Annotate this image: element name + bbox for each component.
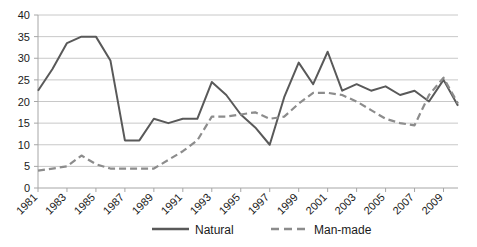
x-axis: [38, 188, 458, 192]
x-axis-tick-label: 2009: [419, 191, 445, 217]
y-axis-tick-labels: 0510152025303540: [18, 9, 30, 194]
x-axis-tick-label: 1983: [43, 191, 69, 217]
x-axis-tick-label: 1993: [187, 191, 213, 217]
x-axis-tick-label: 2003: [332, 191, 358, 217]
y-axis-tick-label: 15: [18, 117, 30, 129]
series-line-natural: [38, 37, 458, 145]
y-axis-tick-label: 35: [18, 31, 30, 43]
y-axis-tick-label: 10: [18, 139, 30, 151]
x-axis-tick-label: 1981: [14, 191, 40, 217]
x-axis-tick-label: 2001: [303, 191, 329, 217]
y-axis-tick-label: 5: [24, 160, 30, 172]
y-axis-tick-label: 20: [18, 96, 30, 108]
x-axis-tick-label: 1995: [216, 191, 242, 217]
x-axis-tick-label: 1991: [158, 191, 184, 217]
data-series-group: [38, 37, 458, 171]
x-axis-tick-labels: 1981198319851987198919911993199519971999…: [14, 191, 445, 217]
y-axis: [34, 15, 38, 188]
x-axis-tick-label: 2007: [390, 191, 416, 217]
x-axis-tick-label: 1985: [72, 191, 98, 217]
x-axis-tick-label: 1997: [245, 191, 271, 217]
y-axis-tick-label: 25: [18, 74, 30, 86]
y-axis-tick-label: 40: [18, 9, 30, 21]
x-axis-tick-label: 1987: [101, 191, 127, 217]
grid-lines: [38, 15, 458, 166]
line-chart: 0510152025303540 19811983198519871989199…: [0, 0, 477, 247]
x-axis-tick-label: 1999: [274, 191, 300, 217]
chart-legend: NaturalMan-made: [152, 223, 372, 237]
x-axis-tick-label: 2005: [361, 191, 387, 217]
y-axis-tick-label: 30: [18, 52, 30, 64]
chart-container: 0510152025303540 19811983198519871989199…: [0, 0, 477, 247]
legend-label-man-made: Man-made: [314, 223, 372, 237]
x-axis-tick-label: 1989: [129, 191, 155, 217]
legend-label-natural: Natural: [195, 223, 234, 237]
